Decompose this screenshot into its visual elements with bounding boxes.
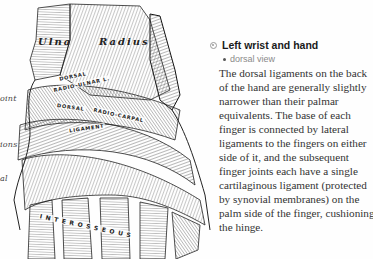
subtitle-row: dorsal view [223,53,373,65]
title-row: Left wrist and hand [209,38,373,52]
info-panel: Left wrist and hand dorsal view The dors… [209,38,373,234]
wrist-hand-illustration: Ulna Radius DORSAL RADIO-ULNAR L. DORSAL… [0,0,215,259]
info-subtitle: dorsal view [230,54,275,64]
side-label-joint: oint [0,94,17,103]
bullet-dot-icon [223,58,226,61]
info-title: Left wrist and hand [222,39,318,51]
side-label-articulations: ions [0,140,17,149]
page: Ulna Radius DORSAL RADIO-ULNAR L. DORSAL… [0,0,373,259]
circle-bullet-icon [210,42,217,49]
ulna-label: Ulna [38,36,72,47]
side-label-dorsal: al [0,174,8,183]
info-body: The dorsal ligaments on the back of the … [219,66,373,234]
radius-label: Radius [99,36,150,47]
